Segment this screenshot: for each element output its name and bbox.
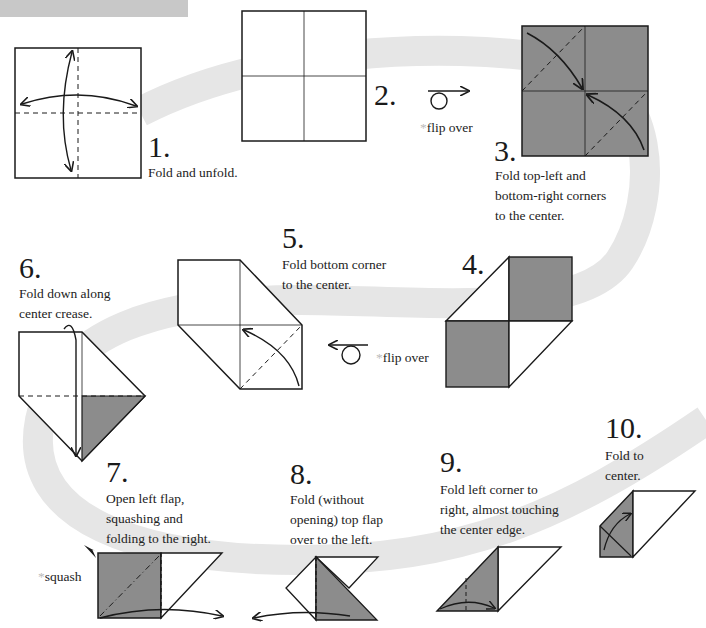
step-7-number: 7.	[106, 457, 129, 487]
star-icon: *	[376, 350, 383, 365]
step-6-caption: Fold down along center crease.	[19, 284, 111, 324]
flip-over-note-1: *flip over	[420, 120, 473, 136]
step-1-number: 1.	[148, 132, 171, 162]
step-1-caption: Fold and unfold.	[148, 163, 238, 183]
star-icon: *	[38, 569, 45, 584]
flip-over-right-icon	[428, 91, 468, 109]
step-6-diagram	[19, 325, 145, 461]
flip-over-left-icon	[330, 345, 368, 364]
star-icon: *	[420, 120, 427, 135]
step-9-number: 9.	[440, 447, 463, 477]
step-1-diagram	[15, 48, 141, 178]
step-7-diagram	[84, 545, 222, 618]
step-3-diagram	[522, 26, 648, 156]
squash-arrowhead-icon	[84, 545, 96, 558]
step-8-diagram	[254, 557, 378, 620]
step-10-number: 10.	[605, 413, 643, 443]
step-4-number: 4.	[462, 249, 485, 279]
step-7-caption: Open left flap, squashing and folding to…	[106, 489, 211, 549]
step-10-caption: Fold to center.	[605, 446, 644, 486]
step-5-caption: Fold bottom corner to the center.	[282, 255, 386, 295]
step-9-diagram	[437, 547, 561, 611]
step-2-number: 2.	[374, 80, 397, 110]
step-10-diagram	[600, 491, 695, 557]
step-6-number: 6.	[19, 253, 42, 283]
step-8-caption: Fold (without opening) top flap over to …	[290, 490, 383, 550]
step-8-number: 8.	[290, 459, 313, 489]
step-5-number: 5.	[282, 223, 305, 253]
step-3-number: 3.	[494, 136, 517, 166]
step-9-caption: Fold left corner to right, almost touchi…	[440, 480, 559, 540]
step-3-caption: Fold top-left and bottom-right corners t…	[495, 166, 606, 226]
step-2-diagram	[242, 11, 366, 141]
flip-over-note-2: *flip over	[376, 350, 429, 366]
squash-note: *squash	[38, 569, 82, 585]
